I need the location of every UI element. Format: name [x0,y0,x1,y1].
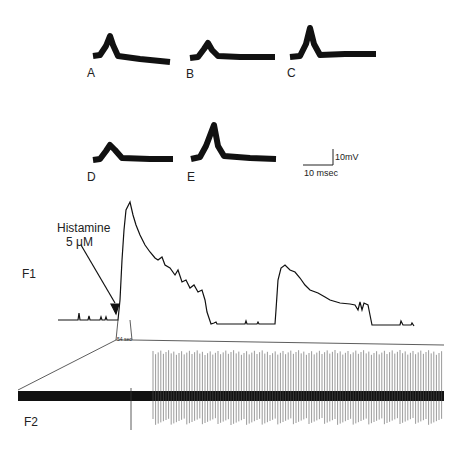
scale-bar [303,149,333,165]
histamine-concentration: 5 μM [66,235,93,249]
trace-label-f2: F2 [24,415,38,429]
waveform-b [190,43,275,58]
histamine-arrow-icon [81,245,119,314]
waveform-c [290,28,376,57]
panel-label-b: B [186,67,194,81]
scale-time-label: 10 msec [304,168,338,178]
panel-label-d: D [87,170,96,184]
f2-trace [18,350,444,430]
f1-trace [58,202,414,326]
panel-label-c: C [287,66,296,80]
zoom-window-label: 54 sec [117,336,132,342]
trace-label-f1: F1 [22,267,36,281]
waveform-d [93,145,173,160]
histamine-label: Histamine [57,221,110,235]
waveform-e [191,125,276,159]
panel-label-e: E [187,170,195,184]
waveform-a [93,36,170,62]
scale-voltage-label: 10mV [335,152,359,162]
panel-label-a: A [87,66,95,80]
